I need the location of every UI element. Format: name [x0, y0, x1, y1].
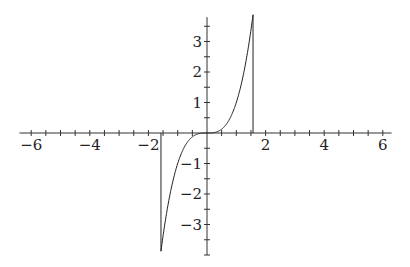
- x-tick-label: −6: [20, 136, 42, 154]
- x-tick-label: 4: [319, 136, 329, 154]
- axes: [19, 17, 391, 255]
- function-plot: −6−4−2246−3−2−1123: [0, 0, 410, 267]
- y-tick-label: −1: [180, 155, 202, 173]
- x-tick-label: −4: [79, 136, 101, 154]
- x-tick-label: −2: [137, 136, 159, 154]
- y-tick-label: 3: [192, 33, 202, 51]
- y-tick-label: −3: [180, 216, 202, 234]
- x-tick-label: 6: [378, 136, 388, 154]
- y-tick-label: −2: [180, 185, 202, 203]
- y-tick-label: 2: [192, 63, 202, 81]
- y-tick-label: 1: [192, 94, 202, 112]
- x-tick-label: 2: [261, 136, 271, 154]
